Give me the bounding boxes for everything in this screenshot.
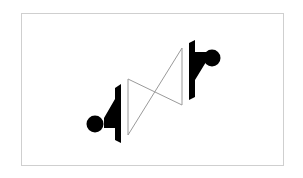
diagram-canvas xyxy=(0,0,303,178)
bowtie-outline xyxy=(128,48,182,135)
left-figure-icon xyxy=(87,84,122,143)
right-figure-icon xyxy=(189,40,221,100)
